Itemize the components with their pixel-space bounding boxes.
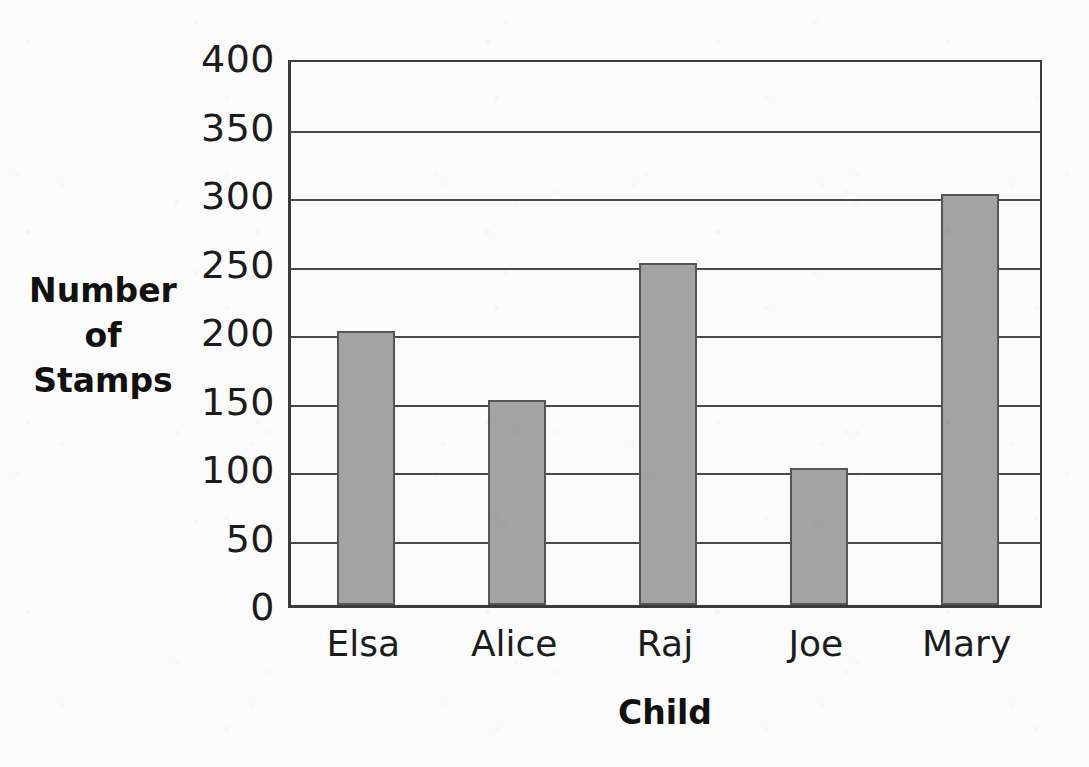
y-tick-label-200: 200 (0, 314, 275, 352)
y-tick-label-50: 50 (0, 520, 275, 558)
x-axis-title: Child (288, 693, 1042, 732)
y-tick-label-250: 250 (0, 246, 275, 284)
x-tick-label-elsa: Elsa (288, 622, 439, 666)
bar-raj (639, 263, 697, 606)
y-tick-label-400: 400 (0, 40, 275, 78)
y-tick-label-350: 350 (0, 109, 275, 147)
bar-alice (488, 400, 546, 606)
y-tick-label-300: 300 (0, 177, 275, 215)
bar-chart-figure: Number of Stamps 40035030025020015010050… (0, 0, 1089, 767)
x-tick-label-mary: Mary (891, 622, 1042, 666)
bars-group (291, 62, 1040, 605)
y-tick-label-100: 100 (0, 451, 275, 489)
bar-elsa (337, 331, 395, 605)
y-axis-tick-labels: 400350300250200150100500 (0, 0, 275, 767)
x-tick-label-joe: Joe (740, 622, 891, 666)
x-tick-label-alice: Alice (439, 622, 590, 666)
y-tick-label-0: 0 (0, 588, 275, 626)
plot-area (288, 60, 1042, 608)
y-tick-label-150: 150 (0, 383, 275, 421)
x-axis-tick-labels: ElsaAliceRajJoeMary (288, 622, 1042, 672)
bar-mary (941, 194, 999, 605)
x-tick-label-raj: Raj (590, 622, 741, 666)
bar-joe (790, 468, 848, 605)
